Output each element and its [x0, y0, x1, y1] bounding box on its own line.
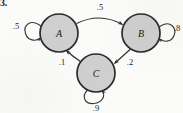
edge-c-to-a — [67, 51, 81, 62]
state-node-b[interactable]: B — [122, 14, 160, 52]
self-loop-weight-b: .8 — [174, 23, 180, 33]
edge-weight-b-to-c: .2 — [127, 57, 133, 67]
state-node-a[interactable]: A — [40, 14, 78, 52]
state-node-c[interactable]: C — [77, 54, 115, 92]
state-node-a-label: A — [55, 28, 63, 39]
state-node-c-label: C — [93, 68, 100, 79]
figure-canvas: 3. A B — [0, 0, 183, 113]
edge-a-to-b — [77, 18, 123, 25]
self-loop-b — [159, 24, 175, 41]
self-loop-weight-a: .5 — [13, 21, 19, 31]
edge-weight-c-to-a: .1 — [59, 57, 65, 67]
state-diagram: A B C .5 .1 .2 .5 .8 .9 — [0, 0, 183, 113]
self-loop-weight-c: .9 — [93, 103, 99, 113]
self-loop-a — [25, 23, 42, 41]
edge-weight-a-to-b: .5 — [97, 2, 103, 12]
state-node-b-label: B — [138, 28, 144, 39]
